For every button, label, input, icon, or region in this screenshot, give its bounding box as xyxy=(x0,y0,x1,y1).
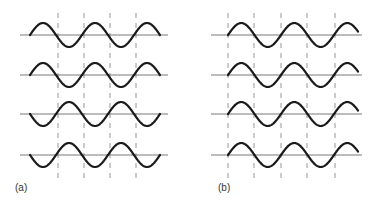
panel-b-label: (b) xyxy=(218,182,230,193)
panel-a xyxy=(20,13,168,178)
wave-diagram xyxy=(0,0,378,208)
panel-b xyxy=(211,13,362,178)
panel-a-label: (a) xyxy=(15,182,27,193)
